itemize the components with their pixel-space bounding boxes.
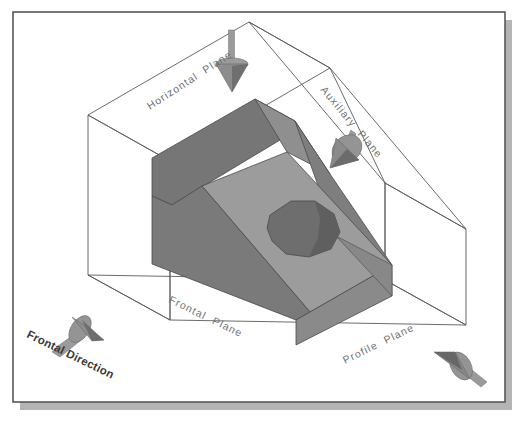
projection-diagram: Horizontal Plane Auxiliary Plane Frontal… xyxy=(0,0,522,427)
figure-container: Horizontal Plane Auxiliary Plane Frontal… xyxy=(0,0,522,427)
